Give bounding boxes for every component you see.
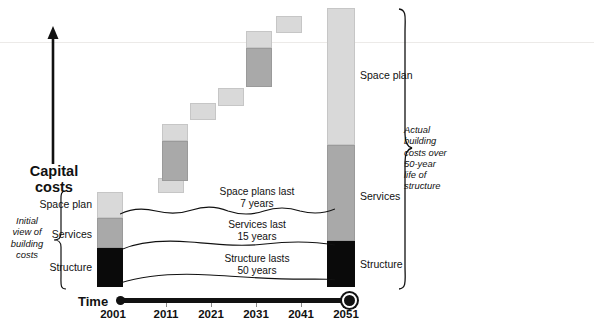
- step-box-3-space-plan: [190, 103, 216, 120]
- x-axis-year-2001: 2001: [90, 308, 136, 320]
- x-axis-tick: [211, 303, 212, 307]
- chart-canvas: Capital costs Space plan Services Struct…: [0, 0, 594, 332]
- x-axis-tick: [256, 303, 257, 307]
- x-axis-line: [118, 298, 350, 303]
- x-axis-label: Time: [78, 294, 108, 309]
- scan-rule: [0, 42, 594, 43]
- x-axis-start-dot: [116, 296, 125, 305]
- step-box-6-space-plan: [276, 16, 302, 33]
- step-box-2-space-plan: [162, 124, 188, 141]
- y-axis-arrow: [38, 24, 68, 166]
- x-axis-year-2051: 2051: [323, 308, 369, 320]
- wavy-divider-structure: [120, 272, 335, 286]
- x-axis-tick: [166, 303, 167, 307]
- x-axis-year-2041: 2041: [278, 308, 324, 320]
- left-brace-note: Initial view of building costs: [2, 215, 52, 260]
- bar-2051-space-plan: [327, 8, 355, 145]
- bar-2051-label-services: Services: [360, 190, 400, 202]
- wavy-divider-services: [120, 238, 335, 252]
- step-box-2-services: [162, 141, 188, 181]
- wavy-divider-space-plan: [120, 205, 335, 217]
- x-axis-end-dot: [342, 293, 357, 308]
- x-axis-year-2021: 2021: [188, 308, 234, 320]
- x-axis-year-2031: 2031: [233, 308, 279, 320]
- step-box-4-space-plan: [218, 88, 244, 106]
- right-brace-note: Actual building costs over 50-year life …: [404, 124, 474, 192]
- bar-2051-services: [327, 145, 355, 241]
- x-axis-tick: [301, 303, 302, 307]
- step-box-5-services: [246, 48, 272, 87]
- step-box-5-space-plan: [246, 31, 272, 48]
- x-axis-year-2011: 2011: [143, 308, 189, 320]
- left-brace: [52, 190, 68, 290]
